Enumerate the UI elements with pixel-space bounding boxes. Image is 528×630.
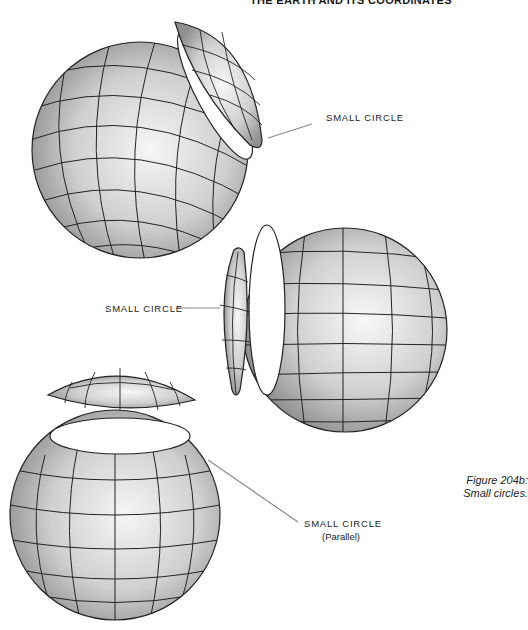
cap-bottom [48, 368, 195, 410]
label-small-circle-bottom: SMALL CIRCLE [304, 518, 382, 529]
leader-line-1 [268, 124, 312, 138]
figure-illustration [0, 0, 528, 630]
leader-line-3 [208, 460, 298, 522]
figure-caption: Figure 204b: Small circles. [440, 474, 528, 500]
cap-middle [220, 248, 250, 395]
globe-bottom [10, 410, 220, 622]
globe-middle [243, 225, 447, 432]
label-small-circle-middle: SMALL CIRCLE [105, 303, 183, 314]
caption-line-1: Figure 204b: [440, 474, 528, 487]
label-small-circle-top: SMALL CIRCLE [326, 112, 404, 123]
label-parallel: (Parallel) [322, 531, 360, 542]
caption-line-2: Small circles. [440, 487, 528, 500]
